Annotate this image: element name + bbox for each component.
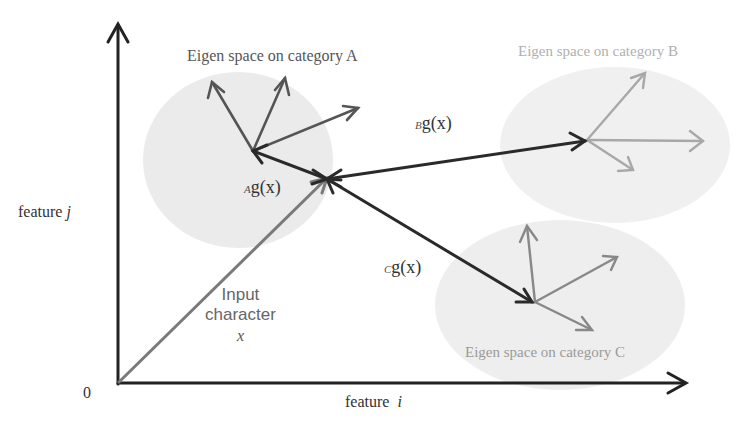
origin-label: 0 [83,385,91,401]
distance-label-b-text: g(x) [422,113,452,133]
eigen-space-b-title: Eigen space on category B [518,44,678,59]
x-axis-variable: i [397,393,401,410]
distance-label-c-text: g(x) [391,257,421,277]
x-axis-label-text: feature [345,393,389,410]
eigen-space-a-title: Eigen space on category A [187,48,358,64]
eigen-space-c-title: Eigen space on category C [465,345,625,360]
input-variable: x [205,326,276,345]
eigen-space-c-region [435,220,685,390]
distance-label-a-text: g(x) [251,177,281,197]
distance-label-b: Bg(x) [415,114,452,132]
diagram-canvas [0,0,755,429]
eigen-space-a-region [143,72,333,248]
distance-label-c: Cg(x) [384,258,421,276]
input-character-label: Input character x [205,285,276,345]
distance-label-a-subscript: A [244,183,251,195]
distance-label-b-subscript: B [415,119,422,131]
eigen-space-b-region [500,67,730,223]
y-axis-label: feature j [18,204,71,220]
input-label-line1: Input [205,285,276,305]
distance-label-a: Ag(x) [244,178,281,196]
x-axis-label: feature i [345,394,402,410]
y-axis-variable: j [66,203,70,220]
eigen-space-diagram: Eigen space on category A Eigen space on… [0,0,755,429]
input-label-line2: character [205,305,276,325]
y-axis-label-text: feature [18,203,62,220]
